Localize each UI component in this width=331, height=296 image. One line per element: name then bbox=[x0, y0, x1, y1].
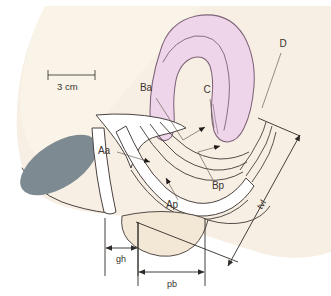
label-Ba: Ba bbox=[140, 82, 153, 93]
label-Aa: Aa bbox=[98, 145, 111, 156]
label-C: C bbox=[203, 84, 210, 95]
label-D: D bbox=[279, 38, 286, 49]
label-Ap: Ap bbox=[166, 199, 179, 210]
measure-gh-label: gh bbox=[116, 254, 126, 264]
perineal-body bbox=[122, 212, 208, 257]
scale-bar-label: 3 cm bbox=[57, 81, 78, 92]
label-Bp: Bp bbox=[212, 180, 225, 191]
figure-root: 3 cm bbox=[0, 0, 331, 296]
anatomy-diagram: 3 cm bbox=[0, 0, 331, 296]
measure-pb-label: pb bbox=[167, 279, 177, 289]
